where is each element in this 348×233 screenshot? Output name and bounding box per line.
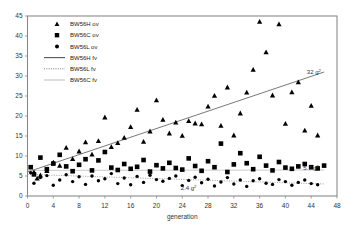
x-tick-label: 36 <box>256 202 264 209</box>
data-point-triangle <box>244 90 249 95</box>
data-point-square <box>180 167 185 172</box>
data-point-square <box>264 163 269 168</box>
data-point-circle <box>142 181 145 184</box>
data-point-square <box>186 156 191 161</box>
data-point-square <box>148 169 153 174</box>
data-point-square <box>77 163 82 168</box>
data-point-circle <box>206 178 209 181</box>
x-tick-label: 12 <box>101 202 109 209</box>
x-tick-label: 8 <box>77 202 81 209</box>
data-point-square <box>38 155 43 160</box>
data-point-triangle <box>70 156 75 161</box>
data-point-triangle <box>218 123 223 128</box>
legend-marker-square <box>55 33 59 37</box>
data-point-circle <box>213 184 216 187</box>
data-point-circle <box>129 183 132 186</box>
data-point-square <box>83 157 88 162</box>
x-tick-label: 20 <box>153 202 161 209</box>
data-point-square <box>167 161 172 166</box>
data-point-square <box>70 169 75 174</box>
data-point-square <box>45 167 50 172</box>
data-point-circle <box>155 178 158 181</box>
data-point-square <box>232 162 237 167</box>
data-point-square <box>115 168 120 173</box>
data-point-square <box>154 163 159 168</box>
data-point-circle <box>264 182 267 185</box>
y-tick-label: 0 <box>19 192 23 199</box>
data-point-circle <box>64 173 67 176</box>
data-point-triangle <box>289 89 294 94</box>
data-point-circle <box>29 171 32 174</box>
data-point-square <box>244 161 249 166</box>
data-point-triangle <box>96 138 101 143</box>
data-point-circle <box>148 174 151 177</box>
x-tick-label: 0 <box>26 202 30 209</box>
data-point-circle <box>97 179 100 182</box>
x-tick-label: 48 <box>333 202 341 209</box>
data-point-square <box>283 165 288 170</box>
data-point-square <box>193 164 198 169</box>
y-tick-label: 20 <box>15 112 23 119</box>
data-point-square <box>270 168 275 173</box>
data-point-square <box>251 167 256 172</box>
legend-label: BW56C fv <box>70 77 97 83</box>
data-point-circle <box>239 178 242 181</box>
y-tick-label: 40 <box>15 32 23 39</box>
data-point-circle <box>193 176 196 179</box>
legend-label: BW56C ov <box>70 32 99 38</box>
data-point-triangle <box>167 131 172 136</box>
x-tick-label: 44 <box>308 202 316 209</box>
data-point-square <box>64 164 69 169</box>
data-point-square <box>135 165 140 170</box>
data-point-triangle <box>141 139 146 144</box>
x-tick-label: 4 <box>51 202 55 209</box>
data-point-triangle <box>212 93 217 98</box>
data-point-square <box>103 150 108 155</box>
y-tick-label: 15 <box>15 132 23 139</box>
data-point-triangle <box>122 135 127 140</box>
x-tick-label: 16 <box>127 202 135 209</box>
data-point-circle <box>258 177 261 180</box>
data-point-triangle <box>76 149 81 154</box>
data-point-triangle <box>276 21 281 26</box>
x-tick-label: 24 <box>179 202 187 209</box>
data-point-square <box>238 151 243 156</box>
data-point-square <box>206 159 211 164</box>
legend-label: BW56H fv <box>70 55 97 61</box>
data-point-square <box>212 165 217 170</box>
data-point-circle <box>297 181 300 184</box>
data-point-triangle <box>231 133 236 138</box>
data-point-circle <box>116 182 119 185</box>
data-point-square <box>174 166 179 171</box>
data-point-square <box>219 141 224 146</box>
data-point-triangle <box>160 117 165 122</box>
data-point-circle <box>290 184 293 187</box>
data-point-square <box>290 167 295 172</box>
data-point-square <box>96 158 101 163</box>
data-point-circle <box>226 176 229 179</box>
x-tick-label: 32 <box>230 202 238 209</box>
x-tick-label: 40 <box>282 202 290 209</box>
data-point-triangle <box>154 97 159 102</box>
data-point-circle <box>277 178 280 181</box>
data-point-circle <box>71 180 74 183</box>
data-point-triangle <box>64 145 69 150</box>
data-point-square <box>199 169 204 174</box>
data-point-circle <box>77 175 80 178</box>
data-point-square <box>109 165 114 170</box>
data-point-square <box>161 166 166 171</box>
data-point-circle <box>271 183 274 186</box>
data-point-triangle <box>193 121 198 126</box>
annotation-label: 2.4 g2 <box>181 184 197 191</box>
data-point-square <box>128 167 133 172</box>
data-point-circle <box>45 174 48 177</box>
data-point-circle <box>200 181 203 184</box>
data-point-square <box>296 164 301 169</box>
x-axis-title: generation <box>167 213 198 221</box>
y-tick-label: 25 <box>15 92 23 99</box>
data-point-triangle <box>102 115 107 120</box>
data-point-triangle <box>89 152 94 157</box>
x-tick-label: 28 <box>204 202 212 209</box>
data-point-circle <box>32 182 35 185</box>
data-point-square <box>141 158 146 163</box>
